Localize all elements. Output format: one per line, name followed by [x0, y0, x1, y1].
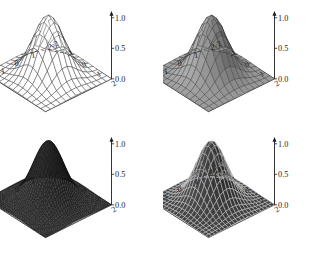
- z-tick-label: 0.0: [115, 75, 125, 84]
- z-tick-label: 0.5: [115, 44, 125, 53]
- z-tick-label: 0.5: [278, 44, 288, 53]
- z-tick-label: 0.5: [115, 170, 125, 179]
- z-tick-label: 1.0: [115, 14, 125, 23]
- surface-plot-grid: 0.00.51.0-2-1012-2-10120.00.51.0-2-1012-…: [0, 0, 326, 253]
- z-tick-label: 0.0: [278, 201, 288, 210]
- surface-panel-2: 0.00.51.0-2-1012-2-1012: [0, 126, 163, 252]
- z-axis: 0.00.51.0: [273, 137, 289, 210]
- z-tick-label: 0.0: [115, 201, 125, 210]
- surface-canvas: 0.00.51.0-2-1012-2-1012: [163, 0, 326, 126]
- z-tick-label: 0.0: [278, 75, 288, 84]
- surface-panel-1: 0.00.51.0-2-1012-2-1012: [163, 0, 326, 126]
- z-axis: 0.00.51.0: [110, 11, 126, 84]
- z-tick-label: 1.0: [115, 140, 125, 149]
- surface-canvas: 0.00.51.0-2-1012-2-1012: [0, 126, 163, 252]
- z-axis: 0.00.51.0: [110, 137, 126, 210]
- z-tick-label: 1.0: [278, 14, 288, 23]
- z-tick-label: 1.0: [278, 140, 288, 149]
- surface-canvas: 0.00.51.0-2-1012-2-1012: [163, 126, 326, 252]
- z-tick-label: 0.5: [278, 170, 288, 179]
- surface-panel-0: 0.00.51.0-2-1012-2-1012: [0, 0, 163, 126]
- surface-canvas: 0.00.51.0-2-1012-2-1012: [0, 0, 163, 126]
- surface-panel-3: 0.00.51.0-2-1012-2-1012: [163, 126, 326, 252]
- z-axis: 0.00.51.0: [273, 11, 289, 84]
